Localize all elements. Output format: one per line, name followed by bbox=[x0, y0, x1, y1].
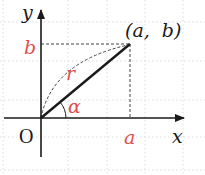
y-axis-label: y bbox=[21, 1, 33, 23]
coordinate-diagram: y x O (a, b) b a r α bbox=[0, 0, 205, 175]
origin-label: O bbox=[19, 125, 33, 147]
b-label: b bbox=[24, 36, 36, 58]
a-label: a bbox=[124, 126, 135, 148]
angle-arc bbox=[60, 102, 66, 118]
radius-label: r bbox=[66, 62, 77, 84]
x-axis-label: x bbox=[172, 125, 183, 147]
radius-segment bbox=[41, 44, 130, 118]
angle-label: α bbox=[68, 95, 81, 117]
point-label: (a, b) bbox=[125, 19, 181, 41]
